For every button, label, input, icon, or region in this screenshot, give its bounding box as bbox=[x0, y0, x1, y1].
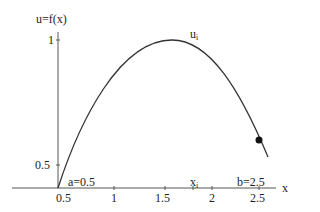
x-tick-label-05: 0.5 bbox=[56, 192, 71, 204]
u-sub: i bbox=[196, 33, 198, 42]
y-tick-label-1: 1 bbox=[48, 34, 54, 46]
y-axis-label: u=f(x) bbox=[36, 13, 67, 25]
a-annotation: a=0.5 bbox=[68, 176, 95, 188]
y-tick-label-05: 0.5 bbox=[35, 159, 50, 171]
b-annotation: b=2.5 bbox=[237, 176, 265, 188]
function-curve bbox=[58, 40, 268, 188]
curve-label: ui bbox=[190, 28, 198, 44]
x-tick-label-25: 2.5 bbox=[250, 192, 265, 204]
x-tick-label-2: 2 bbox=[209, 192, 215, 204]
endpoint-dot bbox=[256, 137, 263, 144]
xi-sub: i bbox=[196, 181, 198, 190]
x-axis-label: x bbox=[282, 182, 288, 194]
xi-label: xi bbox=[190, 176, 198, 192]
x-tick-label-15: 1.5 bbox=[155, 192, 170, 204]
x-tick-label-1: 1 bbox=[111, 192, 117, 204]
